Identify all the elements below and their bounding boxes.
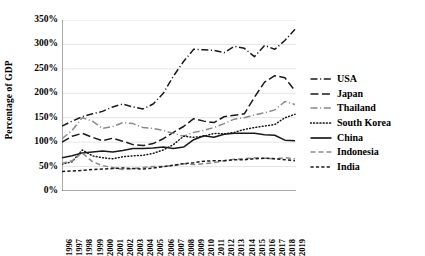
x-tick-label: 1996 [65, 239, 74, 256]
x-tick-label: 2001 [116, 239, 125, 256]
x-tick-label: 2012 [227, 239, 236, 256]
x-tick-label: 2008 [187, 239, 196, 256]
legend-item-south-korea[interactable]: South Korea [310, 116, 422, 131]
y-tick-label: 300% [16, 40, 58, 50]
legend-label: Japan [337, 89, 363, 99]
legend-item-usa[interactable]: USA [310, 72, 422, 87]
legend-label: India [337, 162, 360, 172]
series-line-usa [62, 29, 295, 126]
x-tick-label: 2017 [278, 239, 287, 256]
x-tick-label: 2014 [248, 239, 257, 256]
chart-legend: USAJapanThailandSouth KoreaChinaIndonesi… [310, 72, 422, 174]
x-axis-tick-labels: 1996199719981999200020012002200320042005… [62, 193, 296, 245]
x-tick-label: 2011 [217, 239, 226, 256]
x-tick-label: 2000 [106, 239, 115, 256]
x-tick-label: 2013 [237, 239, 246, 256]
gridlines [62, 20, 296, 167]
series-lines [62, 29, 295, 171]
x-tick-label: 2015 [258, 239, 267, 256]
legend-item-thailand[interactable]: Thailand [310, 101, 422, 116]
y-tick-label: 200% [16, 89, 58, 99]
x-tick-label: 2007 [177, 239, 186, 256]
legend-swatch-icon [310, 102, 332, 114]
y-tick-label: 50% [16, 162, 58, 172]
y-axis-tick-labels: 0%50%100%150%200%250%300%350% [16, 14, 60, 192]
x-tick-label: 1999 [96, 239, 105, 256]
series-line-thailand [62, 102, 295, 139]
legend-swatch-icon [310, 88, 332, 100]
legend-item-japan[interactable]: Japan [310, 87, 422, 102]
legend-item-china[interactable]: China [310, 130, 422, 145]
y-tick-label: 250% [16, 64, 58, 74]
x-tick-label: 2005 [156, 239, 165, 256]
legend-swatch-icon [310, 146, 332, 158]
x-tick-label: 1998 [85, 239, 94, 256]
plot-svg [62, 20, 296, 191]
y-tick-label: 0% [16, 186, 58, 196]
x-tick-label: 2019 [298, 239, 307, 256]
legend-label: Indonesia [337, 147, 379, 157]
x-tick-label: 2009 [197, 239, 206, 256]
y-tick-label: 350% [16, 15, 58, 25]
legend-item-india[interactable]: India [310, 160, 422, 175]
legend-swatch-icon [310, 132, 332, 144]
legend-swatch-icon [310, 117, 332, 129]
x-tick-label: 2006 [167, 239, 176, 256]
legend-swatch-icon [310, 73, 332, 85]
x-tick-label: 2002 [126, 239, 135, 256]
x-tick-label: 2018 [288, 239, 297, 256]
y-axis-title-text: Percentage of GDP [4, 60, 14, 139]
series-line-indonesia [62, 153, 295, 170]
legend-label: South Korea [337, 118, 391, 128]
legend-label: USA [337, 74, 357, 84]
legend-label: China [337, 133, 363, 143]
legend-item-indonesia[interactable]: Indonesia [310, 145, 422, 160]
series-line-china [62, 133, 295, 157]
x-tick-label: 2004 [146, 239, 155, 256]
y-tick-label: 100% [16, 137, 58, 147]
plot-area [62, 20, 296, 191]
x-tick-label: 2016 [268, 239, 277, 256]
y-tick-label: 150% [16, 113, 58, 123]
series-line-japan [62, 76, 295, 146]
axis-lines [62, 20, 296, 191]
x-tick-label: 2003 [136, 239, 145, 256]
legend-label: Thailand [337, 103, 376, 113]
x-tick-label: 1997 [75, 239, 84, 256]
x-tick-label: 2010 [207, 239, 216, 256]
legend-swatch-icon [310, 161, 332, 173]
